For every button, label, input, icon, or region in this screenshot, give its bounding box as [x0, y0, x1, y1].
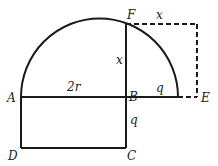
point-label-b: B — [128, 90, 138, 104]
point-label-a: A — [6, 91, 16, 105]
point-label-f: F — [126, 8, 136, 22]
semicircle-arc — [21, 19, 178, 98]
label-bc-q: q — [130, 113, 138, 127]
label-top-x: x — [156, 8, 163, 22]
label-right-q: q — [156, 81, 164, 95]
point-label-c: C — [127, 149, 136, 163]
point-label-d: D — [7, 149, 18, 163]
geometry-diagram: A B C D E F 2r x x q q — [0, 0, 218, 166]
point-label-e: E — [200, 91, 210, 105]
label-bf-x: x — [116, 53, 123, 67]
label-ab-2r: 2r — [66, 80, 82, 94]
